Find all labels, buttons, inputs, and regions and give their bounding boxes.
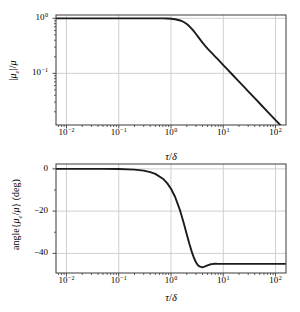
phase-y-tick-label: −40 <box>34 248 48 258</box>
phase-y-tick-label: −20 <box>34 206 48 216</box>
label-segment: μ <box>7 61 18 66</box>
magnitude-x-tick-label: 101 <box>217 128 230 138</box>
phase-y-tick-label: 0 <box>44 164 49 174</box>
magnitude-y-tick-label: 10−1 <box>32 68 48 78</box>
phase-x-tick-label: 100 <box>165 276 178 286</box>
magnitude-x-tick-label: 102 <box>269 128 282 138</box>
label-segment: | <box>7 78 18 80</box>
bode-style-figure: 10−210−110010110210010−110−210−110010110… <box>0 0 300 312</box>
top-x-axis-label: τ/δ <box>131 151 211 163</box>
phase-x-tick-label: 101 <box>217 276 230 286</box>
magnitude-y-tick-label: 100 <box>35 13 48 23</box>
magnitude-x-tick-label: 100 <box>165 128 178 138</box>
label-segment: angle{ <box>10 223 21 249</box>
label-segment: μ <box>10 208 21 213</box>
magnitude-x-tick-label: 10−2 <box>58 128 74 138</box>
label-segment: e <box>15 215 22 218</box>
bottom-x-axis-label: τ/δ <box>131 292 211 304</box>
label-segment: δ <box>172 151 177 162</box>
label-segment: } (deg) <box>10 179 21 207</box>
phase-x-tick-label: 102 <box>269 276 282 286</box>
phase-x-tick-label: 10−2 <box>58 276 74 286</box>
label-segment: μ <box>10 218 21 223</box>
label-segment: e <box>12 70 19 73</box>
bottom-y-axis-label: angle{μe/μ} (deg) <box>10 155 23 275</box>
magnitude-x-tick-label: 10−1 <box>111 128 127 138</box>
label-segment: δ <box>172 292 177 303</box>
phase-x-tick-label: 10−1 <box>111 276 127 286</box>
label-segment: μ <box>7 73 18 78</box>
top-y-axis-label: |μe|/μ <box>7 11 20 131</box>
